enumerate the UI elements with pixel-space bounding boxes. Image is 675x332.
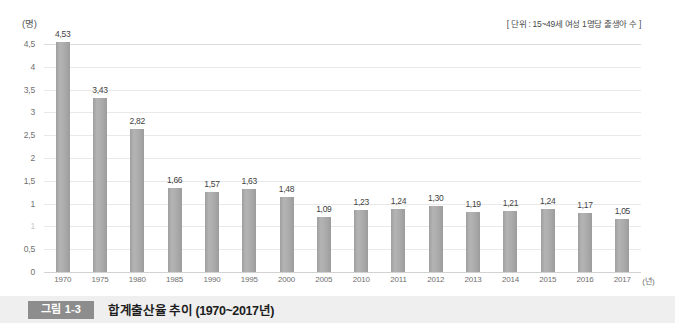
- bar: [429, 206, 443, 272]
- bar-column: 1,24: [391, 44, 405, 272]
- bar: [466, 212, 480, 272]
- y-axis-tick-label: 4,5: [24, 39, 35, 49]
- bar: [56, 42, 70, 272]
- plot-area: 4,543,532,521,5110,504,533,432,821,661,5…: [44, 44, 641, 272]
- bar-column: 1,05: [615, 44, 629, 272]
- y-axis-tick-label: 1,5: [24, 176, 35, 186]
- bar-value-label: 1,30: [428, 193, 443, 203]
- bar-value-label: 1,05: [615, 206, 630, 216]
- x-axis-labels: (년) 197019751980198519901995200020052010…: [44, 275, 641, 289]
- bar-column: 1,30: [429, 44, 443, 272]
- bar: [615, 219, 629, 272]
- y-axis-tick-label: 3: [30, 107, 35, 117]
- figure-number-badge: 그림 1-3: [28, 301, 94, 319]
- bar-column: 1,23: [354, 44, 368, 272]
- x-axis-tick-label: 1980: [129, 275, 146, 284]
- bar-value-label: 1,23: [353, 197, 368, 207]
- y-axis-tick-label: 0,5: [24, 244, 35, 254]
- y-axis-tick-label: 1: [30, 199, 35, 209]
- bar-value-label: 1,21: [503, 198, 518, 208]
- bar: [280, 197, 294, 272]
- y-axis-tick-label: 3,5: [24, 85, 35, 95]
- x-axis-tick-label: 2014: [502, 275, 519, 284]
- y-axis-tick-label: 4: [30, 62, 35, 72]
- x-axis-tick-label: 2013: [465, 275, 482, 284]
- bar: [205, 192, 219, 272]
- bar: [391, 209, 405, 272]
- x-axis-tick-label: 2015: [539, 275, 556, 284]
- bar-value-label: 1,63: [242, 176, 257, 186]
- bar-column: 1,48: [280, 44, 294, 272]
- bar: [354, 210, 368, 272]
- figure-title: 합계출산율 추이 (1970~2017년): [108, 300, 274, 319]
- bar-column: 4,53: [56, 44, 70, 272]
- bar-value-label: 1,48: [279, 184, 294, 194]
- gridline: [44, 272, 641, 273]
- x-axis-tick-label: 1995: [241, 275, 258, 284]
- bar: [503, 211, 517, 272]
- y-axis-unit-label: (명): [22, 16, 37, 30]
- bar-value-label: 1,09: [316, 204, 331, 214]
- bar: [130, 129, 144, 272]
- bar-value-label: 1,57: [204, 179, 219, 189]
- bar-column: 1,57: [205, 44, 219, 272]
- bar-column: 3,43: [93, 44, 107, 272]
- x-axis-tick-label: 2012: [427, 275, 444, 284]
- bar-column: 1,21: [503, 44, 517, 272]
- bar: [93, 98, 107, 272]
- bar-column: 2,82: [130, 44, 144, 272]
- x-axis-tick-label: 1970: [54, 275, 71, 284]
- bar-column: 1,66: [168, 44, 182, 272]
- y-axis-tick-label: 0: [30, 267, 35, 277]
- x-axis-tick-label: 2017: [614, 275, 631, 284]
- bar: [541, 209, 555, 272]
- x-axis-tick-label: 1990: [203, 275, 220, 284]
- bar-value-label: 2,82: [130, 116, 145, 126]
- bar: [242, 189, 256, 272]
- x-axis-tick-label: 1985: [166, 275, 183, 284]
- bar-value-label: 1,24: [391, 196, 406, 206]
- bar-value-label: 1,19: [465, 199, 480, 209]
- bar-value-label: 4,53: [55, 29, 70, 39]
- bar: [317, 217, 331, 272]
- x-axis-tick-label: 2016: [577, 275, 594, 284]
- bar-value-label: 1,24: [540, 196, 555, 206]
- bar-value-label: 1,17: [577, 200, 592, 210]
- x-axis-tick-label: 2010: [353, 275, 370, 284]
- bar-value-label: 1,66: [167, 175, 182, 185]
- bar-column: 1,09: [317, 44, 331, 272]
- figure-caption: 그림 1-3 합계출산율 추이 (1970~2017년): [0, 296, 675, 323]
- y-axis-tick-label: 1: [30, 221, 35, 231]
- bar: [168, 188, 182, 272]
- x-axis-tick-label: 1975: [91, 275, 108, 284]
- bar-column: 1,24: [541, 44, 555, 272]
- bar-column: 1,17: [578, 44, 592, 272]
- y-axis-tick-label: 2,5: [24, 130, 35, 140]
- bar-column: 1,19: [466, 44, 480, 272]
- bar-value-label: 3,43: [92, 85, 107, 95]
- y-axis-tick-label: 2: [30, 153, 35, 163]
- unit-note: [ 단위 : 15~49세 여성 1명당 출생아 수 ]: [507, 17, 641, 29]
- chart-page: (명) [ 단위 : 15~49세 여성 1명당 출생아 수 ] 4,543,5…: [0, 0, 675, 332]
- bar-column: 1,63: [242, 44, 256, 272]
- x-axis-tick-label: 2005: [315, 275, 332, 284]
- x-axis-tick-label: 2011: [390, 275, 406, 284]
- bar: [578, 213, 592, 272]
- x-axis-tick-label: 2000: [278, 275, 295, 284]
- x-axis-unit-label: (년): [642, 275, 654, 286]
